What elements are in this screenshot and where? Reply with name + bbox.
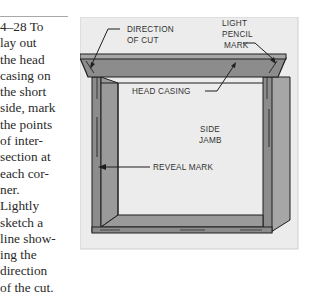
- caption-line: 4–28 To: [0, 19, 74, 35]
- label-light-pencil-mark-2: PENCIL: [222, 30, 253, 39]
- caption-line: of inter-: [0, 133, 74, 149]
- caption-line: section at: [0, 149, 74, 165]
- caption-line: sketch a: [0, 215, 74, 231]
- label-direction-of-cut-1: DIRECTION: [127, 25, 174, 34]
- caption-line: line show-: [0, 231, 74, 247]
- sill: [101, 215, 263, 227]
- label-head-casing: HEAD CASING: [132, 87, 191, 96]
- side-jamb-left: [92, 77, 101, 232]
- head-casing-top-edge: [80, 54, 286, 59]
- label-direction-of-cut-2: OF CUT: [127, 36, 159, 45]
- caption-line: each cor-: [0, 166, 74, 182]
- side-jamb-right: [263, 77, 272, 232]
- door-casing-illustration: DIRECTION OF CUT LIGHT PENCIL MARK HEAD …: [80, 17, 299, 250]
- caption-line: side, mark: [0, 100, 74, 116]
- label-side-jamb-1: SIDE: [200, 125, 220, 134]
- caption-line: of the cut.: [0, 280, 74, 294]
- label-side-jamb-2: JAMB: [199, 136, 222, 145]
- caption-line: the short: [0, 84, 74, 100]
- caption-line: direction: [0, 263, 74, 279]
- side-jamb-right-depth: [271, 77, 290, 232]
- label-reveal-mark: REVEAL MARK: [153, 163, 213, 172]
- figure-caption: 4–28 To lay out the head casing on the s…: [0, 19, 74, 294]
- head-casing: [80, 58, 286, 77]
- caption-line: the points: [0, 117, 74, 133]
- caption-line: Lightly: [0, 198, 74, 214]
- caption-line: ing the: [0, 247, 74, 263]
- caption-rule: [0, 16, 68, 17]
- side-jamb-left-face: [101, 77, 118, 227]
- caption-line: lay out: [0, 35, 74, 51]
- label-light-pencil-mark-3: MARK: [224, 41, 249, 50]
- caption-line: the head: [0, 52, 74, 68]
- caption-line: casing on: [0, 68, 74, 84]
- label-light-pencil-mark-1: LIGHT: [222, 19, 247, 28]
- caption-line: ner.: [0, 182, 74, 198]
